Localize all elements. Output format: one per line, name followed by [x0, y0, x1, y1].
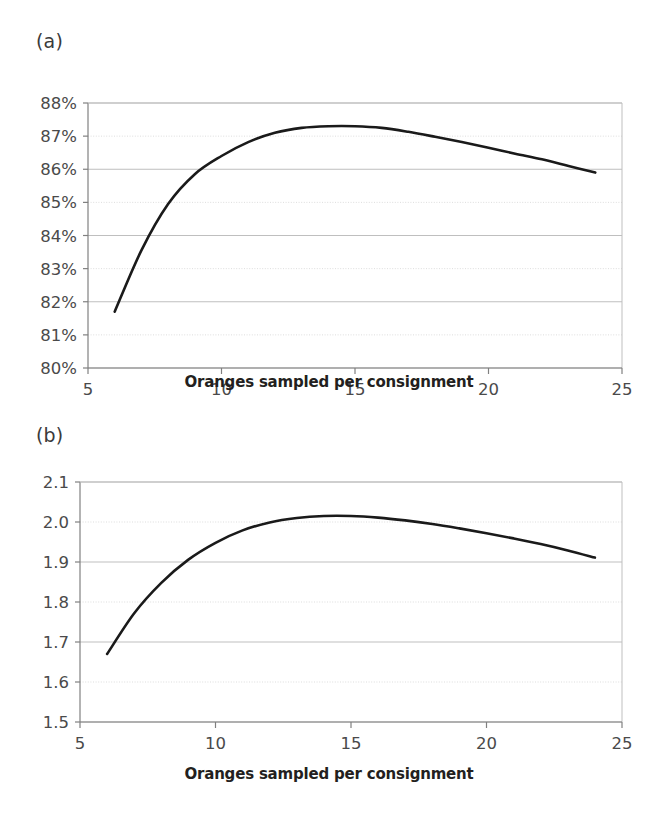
plot-svg-b: 1.51.61.71.81.92.02.1510152025: [0, 412, 658, 802]
y-tick-label: 1.7: [43, 633, 69, 652]
y-tick-label: 1.9: [43, 553, 69, 572]
chart-panel-a: (a) 80%81%82%83%84%85%86%87%88%510152025…: [0, 18, 658, 408]
y-tick-label: 83%: [40, 260, 77, 279]
y-tick-label: 2.1: [43, 473, 69, 492]
y-tick-label: 86%: [40, 160, 77, 179]
y-tick-label: 85%: [40, 193, 77, 212]
y-tick-label: 82%: [40, 293, 77, 312]
y-tick-label: 2.0: [43, 513, 69, 532]
y-tick-label: 1.6: [43, 673, 69, 692]
figure-two-panel-line-charts: (a) 80%81%82%83%84%85%86%87%88%510152025…: [0, 0, 658, 830]
plot-area-a: 80%81%82%83%84%85%86%87%88%510152025: [0, 18, 658, 408]
y-tick-label: 87%: [40, 127, 77, 146]
y-tick-label: 88%: [40, 94, 77, 113]
x-tick-label: 10: [205, 734, 226, 753]
plot-area-b: 1.51.61.71.81.92.02.1510152025: [0, 412, 658, 802]
data-line-a: [115, 126, 596, 312]
y-tick-label: 1.5: [43, 713, 69, 732]
x-tick-label: 5: [75, 734, 86, 753]
y-tick-label: 1.8: [43, 593, 69, 612]
gridlines-group: [88, 103, 622, 368]
x-tick-label: 15: [341, 734, 362, 753]
axis-group: 80%81%82%83%84%85%86%87%88%510152025: [40, 94, 632, 399]
gridlines-group: [80, 482, 622, 722]
x-axis-title-a: Oranges sampled per consignment: [0, 373, 658, 391]
y-tick-label: 84%: [40, 227, 77, 246]
data-line-b: [107, 516, 595, 654]
x-axis-title-b: Oranges sampled per consignment: [0, 765, 658, 783]
y-tick-label: 81%: [40, 326, 77, 345]
x-tick-label: 20: [476, 734, 497, 753]
figure-caption: [0, 818, 658, 830]
chart-panel-b: (b) 1.51.61.71.81.92.02.1510152025 Orang…: [0, 412, 658, 802]
x-tick-label: 25: [612, 734, 633, 753]
plot-svg-a: 80%81%82%83%84%85%86%87%88%510152025: [0, 18, 658, 408]
